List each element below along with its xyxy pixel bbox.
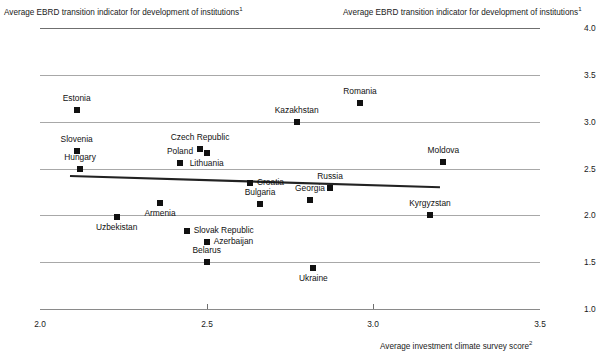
data-point-marker (204, 239, 210, 245)
data-point-marker (184, 228, 190, 234)
x-tick-label-3.0: 3.0 (367, 319, 379, 329)
right-axis-title-footnote: 1 (578, 6, 581, 12)
data-point-marker (427, 212, 433, 218)
data-point-label: Czech Republic (171, 133, 230, 142)
data-point-marker (247, 180, 253, 186)
data-point-label: Lithuania (190, 159, 224, 168)
x-tick-label-2.5: 2.5 (201, 319, 213, 329)
data-point-label: Uzbekistan (96, 223, 137, 232)
right-axis-title-text: Average EBRD transition indicator for de… (343, 8, 578, 17)
data-point-label: Bulgaria (245, 188, 276, 197)
data-point-marker (197, 146, 203, 152)
data-point-label: Georgia (295, 184, 325, 193)
data-point-label: Slovenia (61, 135, 93, 144)
y-tick-label-right-2.0: 2.0 (584, 210, 596, 220)
data-point-marker (440, 159, 446, 165)
data-point-marker (114, 214, 120, 220)
data-point-label: Moldova (428, 146, 460, 155)
data-point-label: Poland (167, 147, 193, 156)
x-axis-title: Average investment climate survey score2 (380, 340, 532, 351)
data-point-label: Armenia (144, 209, 175, 218)
data-point-label: Belarus (192, 246, 220, 255)
x-axis-title-text: Average investment climate survey score (380, 342, 529, 351)
data-point-marker (157, 200, 163, 206)
data-point-marker (357, 100, 363, 106)
y-tick-label-right-2.5: 2.5 (584, 164, 596, 174)
x-tick-label-2.0: 2.0 (34, 319, 46, 329)
data-point-label: Kyrgyzstan (409, 199, 450, 208)
left-axis-title-text: Average EBRD transition indicator for de… (4, 8, 239, 17)
left-axis-title-footnote: 1 (239, 6, 242, 12)
gridline-y-1.0 (40, 309, 540, 310)
data-point-label: Russia (317, 172, 343, 181)
data-point-marker (327, 185, 333, 191)
plot-area: 1.01.52.02.53.03.54.0 1.01.52.02.53.03.5… (40, 28, 540, 309)
data-point-marker (257, 201, 263, 207)
data-point-label: Romania (343, 87, 377, 96)
x-tick-label-3.5: 3.5 (534, 319, 546, 329)
data-point-marker (204, 259, 210, 265)
data-point-label: Ukraine (299, 274, 328, 283)
data-point-marker (77, 166, 83, 172)
x-axis-title-footnote: 2 (529, 340, 532, 346)
data-point-marker (310, 265, 316, 271)
y-tick-label-right-4.0: 4.0 (584, 23, 596, 33)
y-tick-label-right-3.5: 3.5 (584, 70, 596, 80)
data-point-label: Hungary (64, 153, 96, 162)
data-point-label: Slovak Republic (194, 226, 254, 235)
data-point-marker (177, 160, 183, 166)
y-tick-label-right-3.0: 3.0 (584, 117, 596, 127)
data-point-label: Kazakhstan (275, 106, 319, 115)
left-axis-title: Average EBRD transition indicator for de… (4, 4, 242, 18)
data-point-marker (204, 150, 210, 156)
data-point-marker (294, 119, 300, 125)
data-point-marker (74, 107, 80, 113)
y-tick-label-right-1.0: 1.0 (584, 304, 596, 314)
data-point-marker (307, 197, 313, 203)
data-point-label: Estonia (63, 94, 91, 103)
trend-line (40, 28, 540, 309)
y-tick-label-right-1.5: 1.5 (584, 257, 596, 267)
right-axis-title: Average EBRD transition indicator for de… (343, 4, 581, 18)
